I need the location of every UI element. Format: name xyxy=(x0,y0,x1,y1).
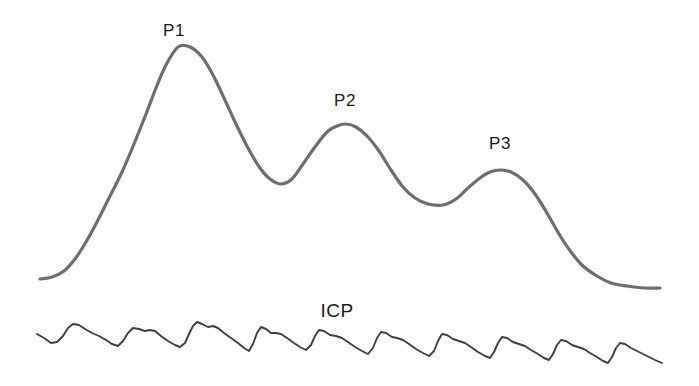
icp-waveform-figure: P1 P2 P3 ICP xyxy=(0,0,699,386)
icp-trace-label: ICP xyxy=(320,300,353,321)
p2-peak-label: P2 xyxy=(334,91,356,110)
p1-peak-label: P1 xyxy=(163,21,185,40)
figure-background xyxy=(0,0,699,386)
p3-peak-label: P3 xyxy=(489,134,511,153)
waveform-canvas: P1 P2 P3 ICP xyxy=(0,0,699,386)
